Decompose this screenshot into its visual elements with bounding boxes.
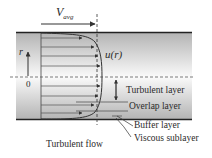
caption-turbulent-flow: Turbulent flow: [46, 140, 103, 150]
turbulent-layer-label: Turbulent layer: [126, 86, 185, 96]
u-r-label: u(r): [105, 49, 122, 60]
turbulent-flow-diagram: Vavg u(r) r 0 Turbulent layer Overlap la…: [0, 0, 212, 158]
r-axis-label: r: [19, 47, 23, 57]
buffer-layer-label: Buffer layer: [134, 121, 180, 131]
v-avg-label: Vavg: [56, 6, 73, 21]
viscous-leader: [116, 118, 131, 137]
viscous-sublayer-label: Viscous sublayer: [134, 134, 199, 144]
origin-label: 0: [26, 80, 31, 89]
overlap-layer-label: Overlap layer: [129, 102, 181, 112]
